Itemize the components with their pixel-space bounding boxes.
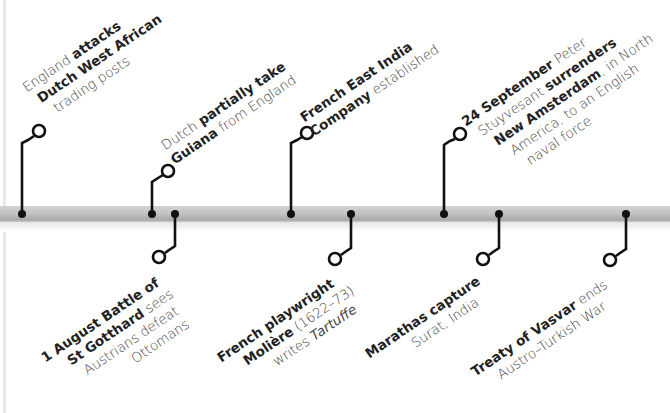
marker-dot-above-2 [287,210,295,218]
connector-event-below-3 [604,214,626,266]
connector-event-below-2 [477,214,499,265]
connector-event-above-1 [152,165,174,214]
marker-dot-below-2 [495,210,503,218]
connector-event-above-0 [22,125,45,214]
marker-dot-below-1 [347,210,355,218]
connector-event-above-3 [444,128,466,214]
marker-dot-above-3 [440,210,448,218]
connector-event-above-2 [291,127,313,214]
marker-dot-below-3 [622,210,630,218]
marker-dot-above-0 [18,210,26,218]
connector-event-below-0 [153,214,175,263]
marker-dot-below-0 [171,210,179,218]
connector-event-below-1 [329,214,351,265]
marker-dot-above-1 [148,210,156,218]
